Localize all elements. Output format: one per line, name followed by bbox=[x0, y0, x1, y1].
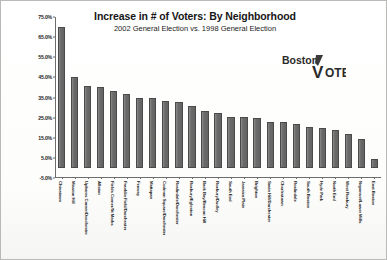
bar bbox=[162, 101, 169, 168]
x-axis-tick-label: Roxbury/Dudley bbox=[215, 181, 220, 213]
x-axis-tick-mark bbox=[283, 177, 284, 179]
chart-page: Increase in # of Voters: By Neighborhood… bbox=[0, 0, 387, 260]
x-axis-tick-mark bbox=[75, 177, 76, 179]
bar bbox=[319, 128, 326, 168]
x-axis-tick-label: Roslindale bbox=[293, 181, 298, 202]
x-axis-tick-label: Franklin Field/Dorchester bbox=[123, 181, 128, 230]
x-axis-tick-label: Mission Hill bbox=[71, 181, 76, 204]
bar bbox=[188, 106, 195, 168]
x-axis-tick-mark bbox=[244, 177, 245, 179]
y-axis-tick-mark bbox=[53, 137, 55, 138]
x-axis-tick-mark bbox=[179, 177, 180, 179]
x-axis-tick-label: Codman Square/Dorchester bbox=[162, 181, 167, 235]
bar bbox=[84, 86, 91, 168]
x-axis-tick-label: South Boston bbox=[306, 181, 311, 208]
x-axis-tick-mark bbox=[270, 177, 271, 179]
bar bbox=[240, 117, 247, 168]
x-axis-tick-mark bbox=[140, 177, 141, 179]
x-axis-tick-label: Uphams Corner/Dorchester bbox=[84, 181, 89, 235]
x-axis-tick-mark bbox=[296, 177, 297, 179]
x-axis-tick-mark bbox=[322, 177, 323, 179]
y-axis-tick-label: 75.0% bbox=[38, 14, 52, 20]
bar bbox=[71, 77, 78, 168]
bar bbox=[358, 139, 365, 168]
bar bbox=[293, 124, 300, 168]
x-axis-tick-mark bbox=[88, 177, 89, 179]
bar-chart: Increase in # of Voters: By Neighborhood… bbox=[1, 1, 387, 260]
x-axis-tick-mark bbox=[114, 177, 115, 179]
bar bbox=[110, 91, 117, 168]
bar bbox=[214, 113, 221, 168]
y-axis-tick-label: 45.0% bbox=[38, 74, 52, 80]
x-axis-tick-label: South End bbox=[228, 181, 233, 202]
x-axis-tick-mark bbox=[374, 177, 375, 179]
y-axis-tick-mark bbox=[53, 77, 55, 78]
bar bbox=[123, 94, 130, 167]
x-axis-tick-label: Roxbury/Egleston bbox=[189, 181, 194, 216]
x-axis-tick-mark bbox=[101, 177, 102, 179]
y-axis-tick-mark bbox=[53, 57, 55, 58]
x-axis-tick-mark bbox=[205, 177, 206, 179]
y-axis-tick-label: 5.0% bbox=[41, 155, 52, 161]
x-axis-tick-label: Mattapan bbox=[149, 181, 154, 199]
bar bbox=[201, 111, 208, 168]
y-axis-tick-mark bbox=[53, 117, 55, 118]
bar bbox=[280, 122, 287, 168]
bar bbox=[136, 98, 143, 168]
x-axis-tick-label: West Roxbury bbox=[345, 181, 350, 209]
x-axis-tick-label: North End bbox=[332, 181, 337, 201]
x-axis-tick-label: Allston bbox=[97, 181, 102, 195]
plot-area: 75.0%65.0%55.0%45.0%35.0%25.0%15.0%5.0%-… bbox=[55, 17, 381, 178]
y-axis-tick-label: 35.0% bbox=[38, 95, 52, 101]
x-axis-tick-label: Jamaica Plain bbox=[241, 181, 246, 208]
bar bbox=[267, 122, 274, 168]
x-axis-tick-mark bbox=[335, 177, 336, 179]
y-axis-tick-label: 55.0% bbox=[38, 54, 52, 60]
x-axis-tick-mark bbox=[127, 177, 128, 179]
x-axis-tick-mark bbox=[166, 177, 167, 179]
x-axis-tick-label: Neponset/Lower Mills bbox=[358, 181, 363, 223]
y-axis-tick-label: 65.0% bbox=[38, 34, 52, 40]
y-axis-tick-mark bbox=[53, 157, 55, 158]
y-axis-tick-mark bbox=[53, 17, 55, 18]
bar bbox=[345, 134, 352, 168]
bar bbox=[306, 127, 313, 168]
x-axis-tick-mark bbox=[192, 177, 193, 179]
bar bbox=[227, 117, 234, 168]
x-axis-tick-mark bbox=[153, 177, 154, 179]
bar bbox=[58, 27, 65, 168]
bar bbox=[332, 130, 339, 168]
y-axis-tick-mark bbox=[53, 178, 55, 179]
bar bbox=[253, 118, 260, 168]
x-axis-tick-label: Roslindale/Dorchester bbox=[175, 181, 180, 225]
x-axis-tick-mark bbox=[231, 177, 232, 179]
x-axis-tick-label: Fenway bbox=[136, 181, 141, 196]
x-axis-tick-label: Hyde Park bbox=[319, 181, 324, 201]
x-axis-tick-label: Back Bay/Beacon Hill bbox=[202, 181, 207, 223]
y-axis-tick-label: 25.0% bbox=[38, 115, 52, 121]
x-axis-tick-label: Chinatown bbox=[58, 181, 63, 202]
x-axis-tick-mark bbox=[257, 177, 258, 179]
bar bbox=[175, 102, 182, 168]
y-axis-tick-label: -5.0% bbox=[39, 175, 52, 181]
x-axis-tick-mark bbox=[348, 177, 349, 179]
x-axis-tick-label: Brighton bbox=[254, 181, 259, 198]
x-axis-tick-mark bbox=[361, 177, 362, 179]
y-axis-tick-mark bbox=[53, 97, 55, 98]
x-axis-tick-mark bbox=[62, 177, 63, 179]
y-axis-tick-mark bbox=[53, 37, 55, 38]
x-axis-tick-mark bbox=[309, 177, 310, 179]
x-axis-tick-mark bbox=[218, 177, 219, 179]
bar bbox=[149, 98, 156, 168]
x-axis-tick-label: Charlestown bbox=[280, 181, 285, 206]
bar bbox=[97, 87, 104, 168]
x-axis-tick-label: Fields Corner/St Marks bbox=[110, 181, 115, 226]
y-axis-tick-label: 15.0% bbox=[38, 135, 52, 141]
x-axis-tick-label: Savin Hill/Dorchester bbox=[267, 181, 272, 222]
bar bbox=[371, 159, 378, 168]
x-axis-tick-label: East Boston bbox=[371, 181, 376, 205]
